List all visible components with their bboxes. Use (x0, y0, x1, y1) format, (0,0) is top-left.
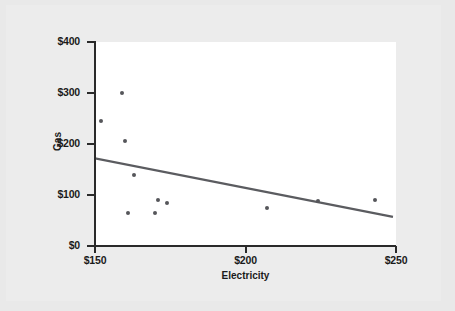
y-axis-tick (87, 194, 94, 196)
trend-line (95, 158, 393, 217)
data-point (316, 199, 320, 203)
chart-panel: $0$100$200$300$400 $150$200$250 Electric… (6, 5, 441, 301)
x-axis-tick (395, 246, 397, 253)
x-axis-tick-label: $200 (216, 254, 276, 266)
data-point (165, 201, 169, 205)
x-axis-tick-label: $250 (366, 254, 426, 266)
trend-line-layer (95, 42, 396, 246)
y-axis-tick-label: $300 (28, 86, 80, 98)
y-axis-tick (87, 143, 94, 145)
y-axis-label: Gas (52, 132, 63, 151)
y-axis-tick (87, 92, 94, 94)
data-point (132, 173, 136, 177)
data-point (126, 211, 130, 215)
x-axis-tick-label: $150 (65, 254, 125, 266)
y-axis-tick-label: $400 (28, 35, 80, 47)
x-axis-tick (245, 246, 247, 253)
data-point (265, 206, 269, 210)
y-axis-tick (87, 245, 94, 247)
y-axis-tick-label: $100 (28, 188, 80, 200)
y-axis-line (94, 41, 96, 247)
data-point (373, 198, 377, 202)
x-axis-tick (94, 246, 96, 253)
chart-screenshot: $0$100$200$300$400 $150$200$250 Electric… (0, 0, 455, 311)
y-axis-tick-label: $0 (28, 239, 80, 251)
y-axis-tick (87, 41, 94, 43)
x-axis-label: Electricity (95, 270, 396, 281)
